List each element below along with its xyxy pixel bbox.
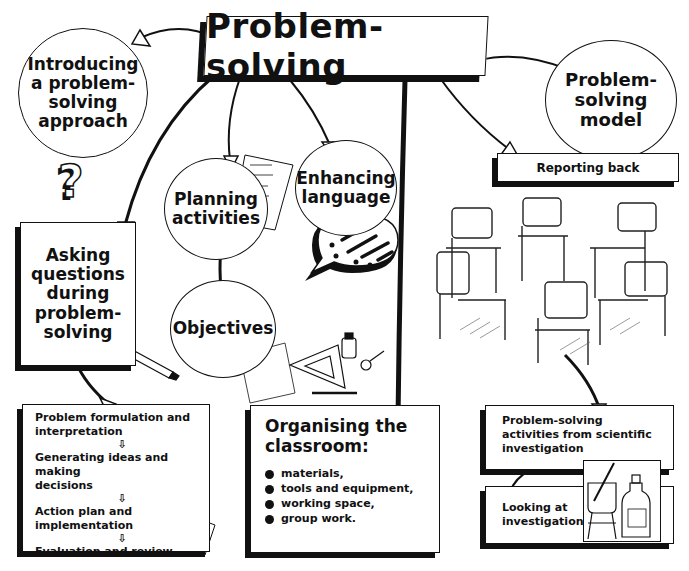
down-arrow-icon: ⇩ (35, 493, 209, 505)
arrow-to-enhancing (290, 80, 330, 145)
arrow-to-classroom (398, 80, 405, 420)
node-objectives: Objectives (170, 280, 276, 378)
classroom-item-label: group work. (281, 512, 356, 525)
arrow-to-introducing (140, 29, 215, 38)
classroom-item: working space, (265, 496, 439, 511)
node-asking-questions: Asking questions during problem- solving (20, 222, 136, 366)
classroom-item-label: tools and equipment, (281, 482, 413, 495)
enhancing-line: Enhancing (296, 169, 396, 188)
classroom-item-label: materials, (281, 467, 344, 480)
bullet-icon (265, 515, 274, 524)
planning-line: Planning (172, 190, 260, 209)
process-step-2-line1: Generating ideas and making (35, 451, 209, 479)
model-line: Problem- (565, 70, 657, 90)
bullet-icon (265, 500, 274, 509)
introducing-line: Introducing (27, 55, 138, 74)
question-mark-icon: ? (58, 160, 84, 204)
introducing-line: a problem- (27, 74, 138, 93)
down-arrow-icon: ⇩ (35, 439, 209, 451)
introducing-line: solving (27, 93, 138, 112)
arrow-to-science (565, 355, 600, 410)
arrow-to-planning (229, 78, 240, 160)
science-activities-line: activities from scientific (502, 428, 673, 442)
node-reporting-back: Reporting back (497, 153, 679, 182)
bullet-icon (265, 485, 274, 494)
introducing-line: approach (27, 112, 138, 131)
process-step-3: Action plan and implementation (35, 505, 209, 533)
arrow-to-reporting (440, 78, 510, 150)
asking-line: problem- (31, 304, 125, 323)
beaker-bottle-icon (584, 461, 660, 541)
asking-line: during (31, 284, 125, 303)
classroom-title: Organising the classroom: (265, 416, 439, 456)
objectives-label: Objectives (173, 319, 274, 338)
chairs-illustration (437, 198, 667, 365)
model-line: solving (565, 90, 657, 110)
classroom-item: tools and equipment, (265, 481, 439, 496)
shadow-hatching (460, 318, 640, 354)
classroom-box: Organising the classroom: materials, too… (250, 405, 440, 553)
science-activities-line: investigation (502, 442, 673, 456)
asking-line: solving (31, 323, 125, 342)
arrow-to-process (75, 360, 110, 405)
node-enhancing-language: Enhancing language (295, 140, 397, 236)
science-activities-line: Problem-solving (502, 414, 673, 428)
down-arrow-icon: ⇩ (35, 533, 209, 545)
reporting-back-label: Reporting back (536, 161, 639, 175)
model-line: model (565, 110, 657, 130)
node-problem-solving-model: Problem- solving model (545, 40, 677, 160)
classroom-item: materials, (265, 466, 439, 481)
node-introducing: Introducing a problem- solving approach (18, 28, 148, 158)
lab-illustration (583, 460, 661, 542)
bullet-icon (265, 470, 274, 479)
classroom-title-line: classroom: (265, 436, 439, 456)
process-step-1-line2: interpretation (35, 425, 209, 439)
process-step-4: Evaluation and review (35, 545, 209, 559)
process-step-2-line2: decisions (35, 479, 209, 493)
central-title: Problem-solving (206, 6, 486, 86)
classroom-item-label: working space, (281, 497, 375, 510)
asking-line: Asking (31, 246, 125, 265)
central-title-box: Problem-solving (203, 16, 488, 76)
classroom-item: group work. (265, 511, 439, 526)
process-step-1-line1: Problem formulation and (35, 411, 209, 425)
process-steps-box: Problem formulation and interpretation ⇩… (22, 404, 210, 552)
enhancing-line: language (296, 188, 396, 207)
node-planning-activities: Planning activities (164, 158, 268, 260)
question-mark-glyph: ? (58, 156, 84, 207)
asking-line: questions (31, 265, 125, 284)
planning-line: activities (172, 209, 260, 228)
classroom-title-line: Organising the (265, 416, 439, 436)
